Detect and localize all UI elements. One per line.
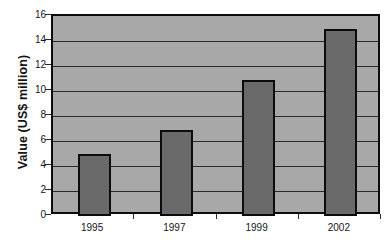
y-axis-tick-label: 16 <box>6 9 46 20</box>
y-axis-tick-label: 2 <box>6 184 46 195</box>
y-axis-tick-label: 12 <box>6 59 46 70</box>
y-axis-tick-label: 4 <box>6 159 46 170</box>
y-axis-tick-mark <box>45 39 51 40</box>
x-axis-tick-label: 1995 <box>62 222 122 233</box>
bar <box>324 29 357 217</box>
bar <box>242 80 275 216</box>
y-axis-tick-mark <box>45 64 51 65</box>
y-axis-tick-mark <box>45 14 51 15</box>
x-axis-tick-label: 1999 <box>227 222 287 233</box>
y-axis-tick-mark <box>45 89 51 90</box>
x-axis-tick-mark <box>216 214 217 219</box>
x-axis-tick-mark <box>298 214 299 219</box>
y-axis-tick-label: 8 <box>6 109 46 120</box>
y-axis-tick-mark <box>45 164 51 165</box>
y-axis-tick-label: 14 <box>6 34 46 45</box>
x-axis-tick-mark <box>380 214 381 219</box>
plot-area <box>51 14 380 214</box>
bar <box>160 130 193 216</box>
y-axis-tick-mark <box>45 114 51 115</box>
y-axis-tick-mark <box>45 214 51 215</box>
x-axis-tick-label: 2002 <box>309 222 369 233</box>
y-axis-tick-mark <box>45 139 51 140</box>
y-axis-tick-label: 6 <box>6 134 46 145</box>
y-axis-tick-label: 10 <box>6 84 46 95</box>
bar <box>78 154 111 217</box>
x-axis-tick-mark <box>133 214 134 219</box>
x-axis-tick-label: 1997 <box>144 222 204 233</box>
y-axis-tick-label: 0 <box>6 209 46 220</box>
y-axis-tick-mark <box>45 189 51 190</box>
bar-chart-figure: Value (US$ million) 0246810121416 199519… <box>0 0 391 245</box>
